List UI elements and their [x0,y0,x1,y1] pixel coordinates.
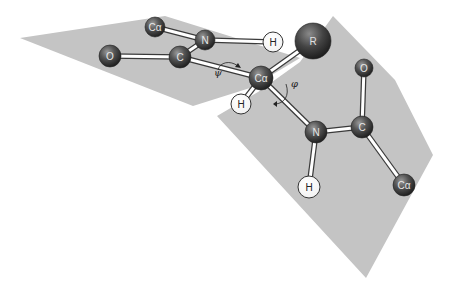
atom-label: Cα [254,73,267,84]
peptide-torsion-diagram: CαNOCHRCαHNCOHCα ψ φ [0,0,450,283]
atom-label: R [309,36,316,47]
atom-label: H [269,37,276,48]
atom-label: H [237,99,244,110]
atom-calpha-center: Cα [249,66,273,90]
atom-label: O [106,51,114,62]
atom-label: H [305,182,312,193]
atom-label: Cα [148,22,161,33]
atom-h-lower: H [298,176,320,198]
atom-h-top: H [263,32,283,52]
atom-calpha-top-left: Cα [145,17,165,37]
atom-c-right: C [351,116,373,138]
atom-label: N [312,127,319,138]
atom-n-top: N [195,30,215,50]
atom-calpha-right: Cα [393,174,415,196]
atom-label: O [360,63,368,74]
atom-label: N [201,35,208,46]
atom-label: Cα [397,180,410,191]
atom-o-right: O [355,59,373,77]
phi-label: φ [291,78,298,89]
atom-o-left: O [99,45,121,67]
atom-c-left: C [169,46,191,68]
atom-h-calpha: H [231,94,251,114]
atom-n-lower: N [305,121,327,143]
psi-label: ψ [214,67,222,78]
atom-label: C [358,122,365,133]
atom-label: C [176,52,183,63]
atom-r-sidechain: R [295,23,331,59]
peptide-planes [20,16,433,278]
